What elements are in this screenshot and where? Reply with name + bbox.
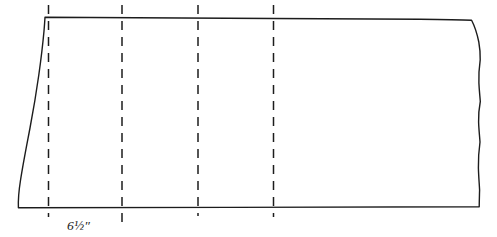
width-dimension-label: 6½″ <box>67 218 90 233</box>
fabric-panel-diagram: Fabric panel with fold lines 6½″ <box>0 0 497 237</box>
diagram-canvas: Fabric panel with fold lines 6½″ <box>0 0 497 237</box>
fabric-panel-outline <box>18 17 480 208</box>
